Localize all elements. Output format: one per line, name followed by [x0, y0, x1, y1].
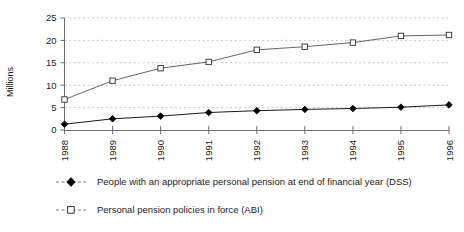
- data-point-diamond[interactable]: [61, 121, 68, 128]
- gridlines: [65, 18, 450, 108]
- x-tick-label: 1996: [444, 140, 455, 161]
- legend-marker-open-square: [68, 207, 75, 214]
- legend-item-1[interactable]: Personal pension policies in force (ABI): [56, 204, 263, 215]
- data-point-diamond[interactable]: [302, 106, 309, 113]
- y-tick-label: 0: [51, 124, 56, 135]
- x-tick-label: 1989: [107, 140, 118, 161]
- x-tick-label: 1995: [395, 140, 406, 161]
- y-tick-label: 5: [51, 102, 56, 113]
- x-tick-label: 1988: [59, 140, 70, 161]
- data-point-diamond[interactable]: [253, 107, 260, 114]
- data-point-square[interactable]: [110, 78, 115, 83]
- x-tick-label: 1993: [299, 140, 310, 161]
- data-point-square[interactable]: [206, 59, 211, 64]
- data-point-diamond[interactable]: [109, 116, 116, 123]
- y-tick-labels: 0510152025: [46, 12, 57, 135]
- legend-marker-filled-diamond: [67, 178, 75, 187]
- data-point-square[interactable]: [398, 33, 403, 38]
- series-layer: [61, 32, 452, 127]
- series-dss: [61, 102, 452, 128]
- data-point-square[interactable]: [446, 32, 451, 37]
- legend: People with an appropriate personal pens…: [56, 176, 412, 215]
- y-axis-title: Millions: [5, 67, 15, 98]
- x-tick-label: 1990: [155, 140, 166, 161]
- data-point-diamond[interactable]: [157, 113, 164, 120]
- legend-label-abi: Personal pension policies in force (ABI): [97, 204, 263, 215]
- y-tick-label: 15: [46, 57, 57, 68]
- data-point-square[interactable]: [254, 47, 259, 52]
- y-axis: [61, 18, 65, 130]
- data-point-diamond[interactable]: [205, 109, 212, 116]
- x-tick-label: 1991: [203, 140, 214, 161]
- series-line: [65, 35, 450, 100]
- data-point-square[interactable]: [62, 97, 67, 102]
- legend-label-dss: People with an appropriate personal pens…: [97, 176, 412, 187]
- x-axis: [65, 126, 450, 134]
- x-tick-labels: 198819891990199119921993199419951996: [59, 140, 455, 161]
- y-tick-label: 20: [46, 35, 57, 46]
- data-point-square[interactable]: [158, 66, 163, 71]
- data-point-diamond[interactable]: [398, 104, 405, 111]
- y-tick-label: 25: [46, 12, 57, 23]
- x-tick-label: 1994: [347, 140, 358, 161]
- y-tick-label: 10: [46, 80, 57, 91]
- data-point-diamond[interactable]: [350, 105, 357, 112]
- series-abi: [62, 32, 452, 102]
- data-point-square[interactable]: [302, 44, 307, 49]
- x-tick-label: 1992: [251, 140, 262, 161]
- chart-container: 0510152025 19881989199019911992199319941…: [0, 0, 464, 232]
- line-chart: 0510152025 19881989199019911992199319941…: [0, 0, 464, 232]
- legend-item-0[interactable]: People with an appropriate personal pens…: [56, 176, 412, 187]
- data-point-square[interactable]: [350, 40, 355, 45]
